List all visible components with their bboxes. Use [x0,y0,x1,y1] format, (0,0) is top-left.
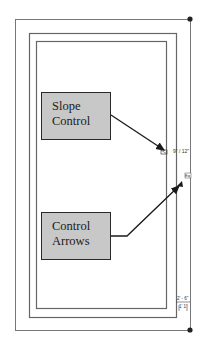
roof-plan-drawing [0,0,206,343]
dimension-bottom-label[interactable]: 1' 1" [179,304,188,309]
wall-outer-line [30,34,177,318]
slope-control-leader-arrow [111,115,164,150]
callout-line: Slope [52,99,110,114]
control-arrows-callout: Control Arrows [41,212,111,260]
corner-point-top-right[interactable] [187,16,192,21]
callout-line: Control [52,114,110,129]
eq-tag-label: Eq [185,173,190,178]
dimension-top-label[interactable]: 2' - 6" [177,296,188,301]
callout-line: Control [52,219,110,234]
slope-value-label[interactable]: 9" / 12" [173,148,189,154]
control-arrows-leader-arrow [110,186,179,236]
corner-point-bottom-right[interactable] [187,327,192,332]
wall-inner-line [37,42,167,309]
callout-line: Arrows [52,234,110,249]
control-arrow-grip-icon[interactable] [177,181,183,187]
slope-control-callout: Slope Control [41,92,111,140]
outer-boundary [16,20,191,331]
